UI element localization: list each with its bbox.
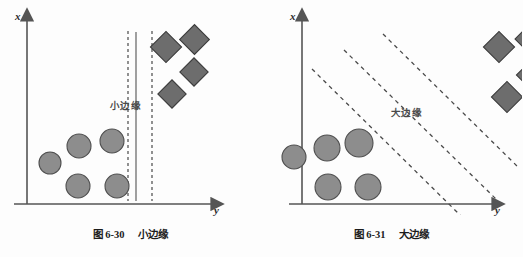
class-diamonds-group [150,25,209,108]
class-circles-group [39,129,129,198]
data-point-circle [315,174,341,200]
data-point-diamond [516,59,522,90]
data-point-circle [345,129,373,157]
data-point-diamond [483,31,514,62]
data-point-circle [39,152,61,174]
data-point-diamond [491,81,522,112]
x-axis-label: x [15,11,21,22]
caption-title: 小边缘 [138,228,168,240]
figure-caption-large-margin: 图 6-31大边缘 [261,226,522,241]
data-point-circle [66,174,90,198]
caption-number: 图 6-30 [93,229,125,240]
data-point-circle [100,129,124,153]
caption-number: 图 6-31 [354,229,386,240]
data-point-diamond [180,58,208,86]
figure-panel-large-margin: x y 大边缘 图 6-31大边缘 [261,0,522,257]
data-point-diamond [515,22,522,56]
class-circles-group [282,129,381,200]
caption-title: 大边缘 [399,228,429,240]
x-axis-label: x [290,11,296,22]
data-point-circle [355,174,381,200]
figure-caption-small-margin: 图 6-30小边缘 [0,226,261,241]
data-point-circle [105,174,129,198]
margin-lines-group [312,34,519,215]
data-point-diamond [150,31,181,62]
y-axis-label: y [495,205,500,216]
data-point-diamond [180,25,210,55]
figure-panel-small-margin: x y 小边缘 图 6-30小边缘 [0,0,261,257]
margin-annotation-label: 大边缘 [391,108,422,118]
margin-annotation-label: 小边缘 [110,101,141,111]
data-point-circle [67,134,91,158]
y-axis-label: y [214,205,219,216]
data-point-circle [282,145,306,169]
data-point-diamond [158,80,186,108]
data-point-circle [314,135,340,161]
class-diamonds-group [483,22,522,113]
figure-page: x y 小边缘 图 6-30小边缘 [0,0,523,257]
